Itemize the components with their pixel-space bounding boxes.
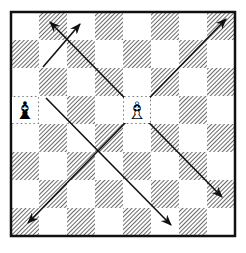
dark-square	[95, 124, 123, 152]
light-square	[179, 68, 207, 96]
light-square	[67, 68, 95, 96]
dark-square	[207, 68, 235, 96]
light-square	[123, 124, 151, 152]
light-square	[39, 96, 67, 124]
dark-square	[179, 152, 207, 180]
light-square	[151, 40, 179, 68]
light-square	[95, 208, 123, 236]
light-square	[67, 12, 95, 40]
light-square	[179, 180, 207, 208]
dark-square	[207, 124, 235, 152]
light-square	[95, 152, 123, 180]
dark-square	[67, 152, 95, 180]
dark-square	[179, 208, 207, 236]
light-square	[39, 152, 67, 180]
light-square	[95, 96, 123, 124]
light-square	[67, 180, 95, 208]
light-square	[11, 12, 39, 40]
light-square	[151, 152, 179, 180]
light-square	[151, 208, 179, 236]
dark-square	[39, 180, 67, 208]
light-square	[151, 96, 179, 124]
light-square	[39, 208, 67, 236]
dark-square	[95, 12, 123, 40]
white-bishop-icon: ♗	[126, 97, 148, 125]
light-square	[207, 40, 235, 68]
light-square	[123, 12, 151, 40]
dark-square	[179, 96, 207, 124]
dark-square	[67, 96, 95, 124]
dark-square	[151, 12, 179, 40]
dark-square	[123, 208, 151, 236]
dark-square	[11, 208, 39, 236]
light-square	[123, 68, 151, 96]
dark-square	[207, 12, 235, 40]
chess-diagram: ♝♗	[0, 0, 246, 253]
light-square	[11, 68, 39, 96]
light-square	[95, 40, 123, 68]
light-square	[11, 124, 39, 152]
dark-square	[123, 40, 151, 68]
dark-square	[151, 180, 179, 208]
dark-square	[67, 208, 95, 236]
dark-square	[11, 40, 39, 68]
light-square	[179, 124, 207, 152]
light-square	[207, 152, 235, 180]
dark-square	[39, 68, 67, 96]
light-square	[123, 180, 151, 208]
dark-square	[39, 124, 67, 152]
black-bishop-icon: ♝	[14, 97, 36, 125]
light-square	[11, 180, 39, 208]
dark-square	[11, 152, 39, 180]
dark-square	[207, 180, 235, 208]
light-square	[179, 12, 207, 40]
light-square	[207, 208, 235, 236]
dark-square	[95, 180, 123, 208]
dark-square	[123, 152, 151, 180]
light-square	[67, 124, 95, 152]
light-square	[207, 96, 235, 124]
